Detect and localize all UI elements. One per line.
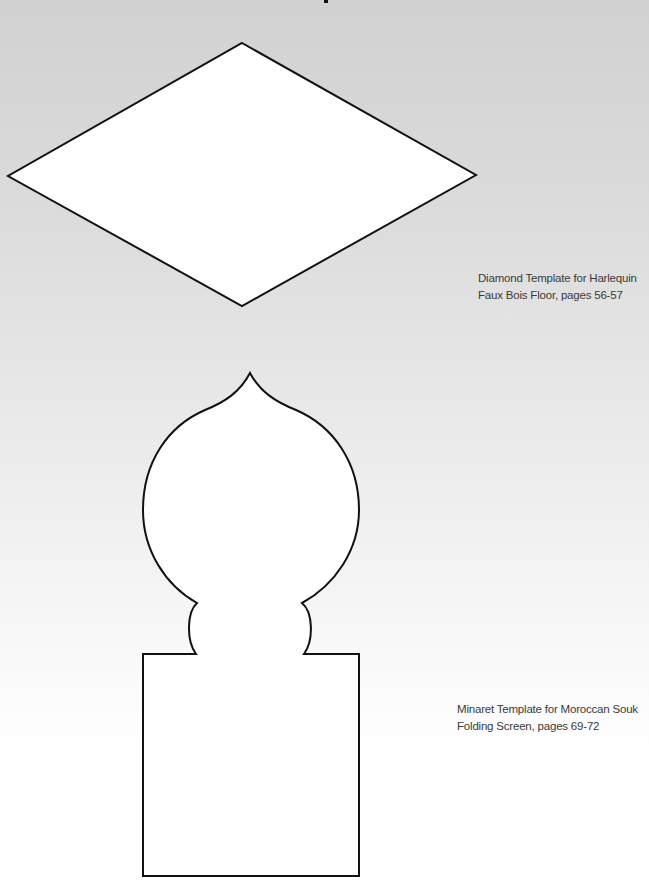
caption-line: Minaret Template for Moroccan Souk (457, 701, 638, 718)
template-page: Diamond Template for Harlequin Faux Bois… (0, 0, 649, 888)
template-shapes (0, 0, 649, 888)
diamond-template-shape (8, 43, 476, 306)
caption-line: Diamond Template for Harlequin (478, 270, 637, 287)
minaret-template-caption: Minaret Template for Moroccan Souk Foldi… (457, 701, 638, 735)
caption-line: Faux Bois Floor, pages 56-57 (478, 287, 637, 304)
diamond-template-caption: Diamond Template for Harlequin Faux Bois… (478, 270, 637, 304)
caption-line: Folding Screen, pages 69-72 (457, 718, 638, 735)
minaret-template-shape (143, 373, 359, 876)
